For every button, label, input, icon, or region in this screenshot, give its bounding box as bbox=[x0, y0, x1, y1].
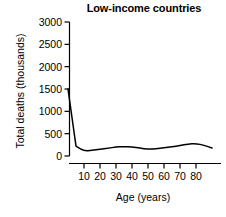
chart-figure: Low-income countries Total deaths (thous… bbox=[0, 0, 226, 217]
x-tick-label-group: 10 20 30 40 50 60 70 80 bbox=[0, 0, 226, 217]
x-tick-label: 80 bbox=[184, 171, 208, 182]
